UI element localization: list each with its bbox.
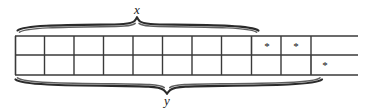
brace-label-x: x [134, 3, 140, 16]
grid-dividers-bottom-row [16, 55, 312, 75]
asterisk-mark: * [322, 60, 328, 71]
brace-top [18, 17, 259, 32]
brace-bottom [16, 78, 323, 94]
diagram-canvas [0, 0, 369, 111]
asterisk-mark: * [264, 41, 270, 52]
grid-horizontal-lines [15, 36, 358, 75]
asterisk-mark: * [293, 41, 299, 52]
strip-diagram-figure: x y * * * [0, 0, 369, 111]
brace-label-y: y [164, 94, 170, 107]
